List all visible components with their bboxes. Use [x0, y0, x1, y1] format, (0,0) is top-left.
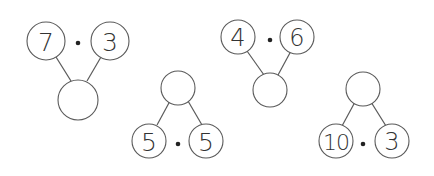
connector-line — [157, 101, 170, 125]
connector-line — [342, 102, 355, 126]
factor-left: 5 — [141, 128, 157, 157]
factor-right: 5 — [198, 128, 214, 157]
connector-line — [247, 51, 264, 75]
number-bond-2: 5 5 — [132, 71, 223, 158]
multiply-dot — [76, 41, 81, 46]
answer-circle[interactable] — [161, 71, 195, 105]
number-bond-3: 4 6 — [221, 20, 314, 107]
answer-circle[interactable] — [58, 80, 98, 120]
factor-left: 10 — [323, 130, 349, 155]
answer-circle[interactable] — [253, 73, 287, 107]
connector-line — [371, 102, 386, 126]
connector-line — [56, 57, 71, 81]
factor-right: 3 — [384, 128, 399, 156]
connector-line — [188, 101, 202, 125]
factor-right: 6 — [289, 24, 304, 52]
multiply-dot — [176, 142, 181, 147]
factor-right: 3 — [102, 28, 118, 57]
multiply-dot — [361, 142, 366, 147]
number-bond-4: 10 3 — [319, 72, 409, 158]
connector-line — [278, 51, 291, 75]
multiply-dot — [268, 38, 273, 43]
factor-left: 7 — [38, 28, 54, 57]
factor-left: 4 — [230, 24, 245, 52]
connector-line — [87, 57, 101, 81]
answer-circle[interactable] — [346, 72, 380, 106]
number-bond-1: 7 3 — [27, 22, 129, 120]
